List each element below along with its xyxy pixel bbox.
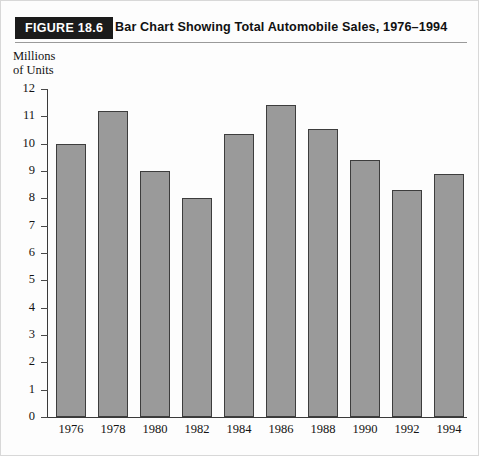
y-axis-tick-label: 4 — [5, 300, 35, 315]
bar-1990 — [350, 160, 380, 417]
y-axis-tick-label: 9 — [5, 163, 35, 178]
bar-1994 — [434, 174, 464, 417]
y-axis-tick-label: 0 — [5, 409, 35, 424]
y-axis-tick-label: 11 — [5, 108, 35, 123]
bar-1976 — [56, 144, 86, 417]
x-axis-line — [47, 417, 467, 418]
bar-1988 — [308, 129, 338, 417]
y-axis-tick — [41, 417, 48, 418]
x-axis-label-1994: 1994 — [419, 422, 479, 437]
plot-area: 0123456789101112 19761978198019821984198… — [1, 1, 479, 456]
y-axis-tick-label: 8 — [5, 190, 35, 205]
bar-1992 — [392, 190, 422, 417]
bar-series — [47, 89, 467, 417]
y-axis-tick-label: 2 — [5, 354, 35, 369]
y-axis-tick-label: 7 — [5, 218, 35, 233]
y-axis-tick-label: 5 — [5, 272, 35, 287]
y-axis-tick-label: 3 — [5, 327, 35, 342]
bar-1984 — [224, 134, 254, 417]
figure-container: FIGURE 18.6 Bar Chart Showing Total Auto… — [0, 0, 479, 456]
y-axis-tick-label: 1 — [5, 382, 35, 397]
bar-1982 — [182, 198, 212, 417]
y-axis-tick-label: 6 — [5, 245, 35, 260]
bar-1986 — [266, 105, 296, 417]
bar-1978 — [98, 111, 128, 417]
bar-1980 — [140, 171, 170, 417]
y-axis-tick-label: 10 — [5, 136, 35, 151]
y-axis-tick-label: 12 — [5, 81, 35, 96]
